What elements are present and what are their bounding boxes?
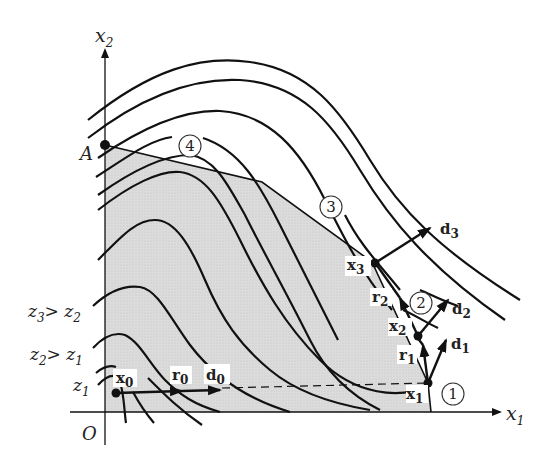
point-A [100,140,110,150]
point-x3 [371,259,380,268]
feasible-region [105,145,431,412]
vertex-A-label: A [78,143,93,164]
origin-label: O [82,423,97,444]
label-d3: d3 [440,220,459,241]
contour-label-z2: z2> z1 [29,344,83,368]
x2-axis-label: x2 [95,24,113,50]
contour-label-z1: z1 [72,375,90,399]
label-d2: d2 [452,300,471,321]
circled-number-1: 1 [442,383,464,405]
x1-axis-label: x1 [506,402,524,428]
svg-text:4: 4 [185,137,195,155]
svg-text:3: 3 [326,198,336,216]
circled-number-3: 3 [320,196,342,218]
point-x0 [112,389,121,398]
contour-label-z3: z3> z2 [27,301,81,325]
svg-text:1: 1 [448,385,458,403]
circled-number-4: 4 [179,135,201,157]
circled-number-2: 2 [410,292,432,314]
svg-text:2: 2 [416,294,426,312]
label-d1: d1 [451,335,470,356]
point-x2 [414,332,423,341]
optimization-diagram: 4 3 2 1 x2 x1 O A z3> z2 z2> z1 z1 x0 r0… [0,0,548,454]
